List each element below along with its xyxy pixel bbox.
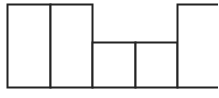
block-5 [178,5,219,88]
block-4 [136,43,178,88]
block-2 [51,5,93,88]
block-3 [93,43,136,88]
block-1 [8,5,51,88]
block-diagram [0,0,218,98]
